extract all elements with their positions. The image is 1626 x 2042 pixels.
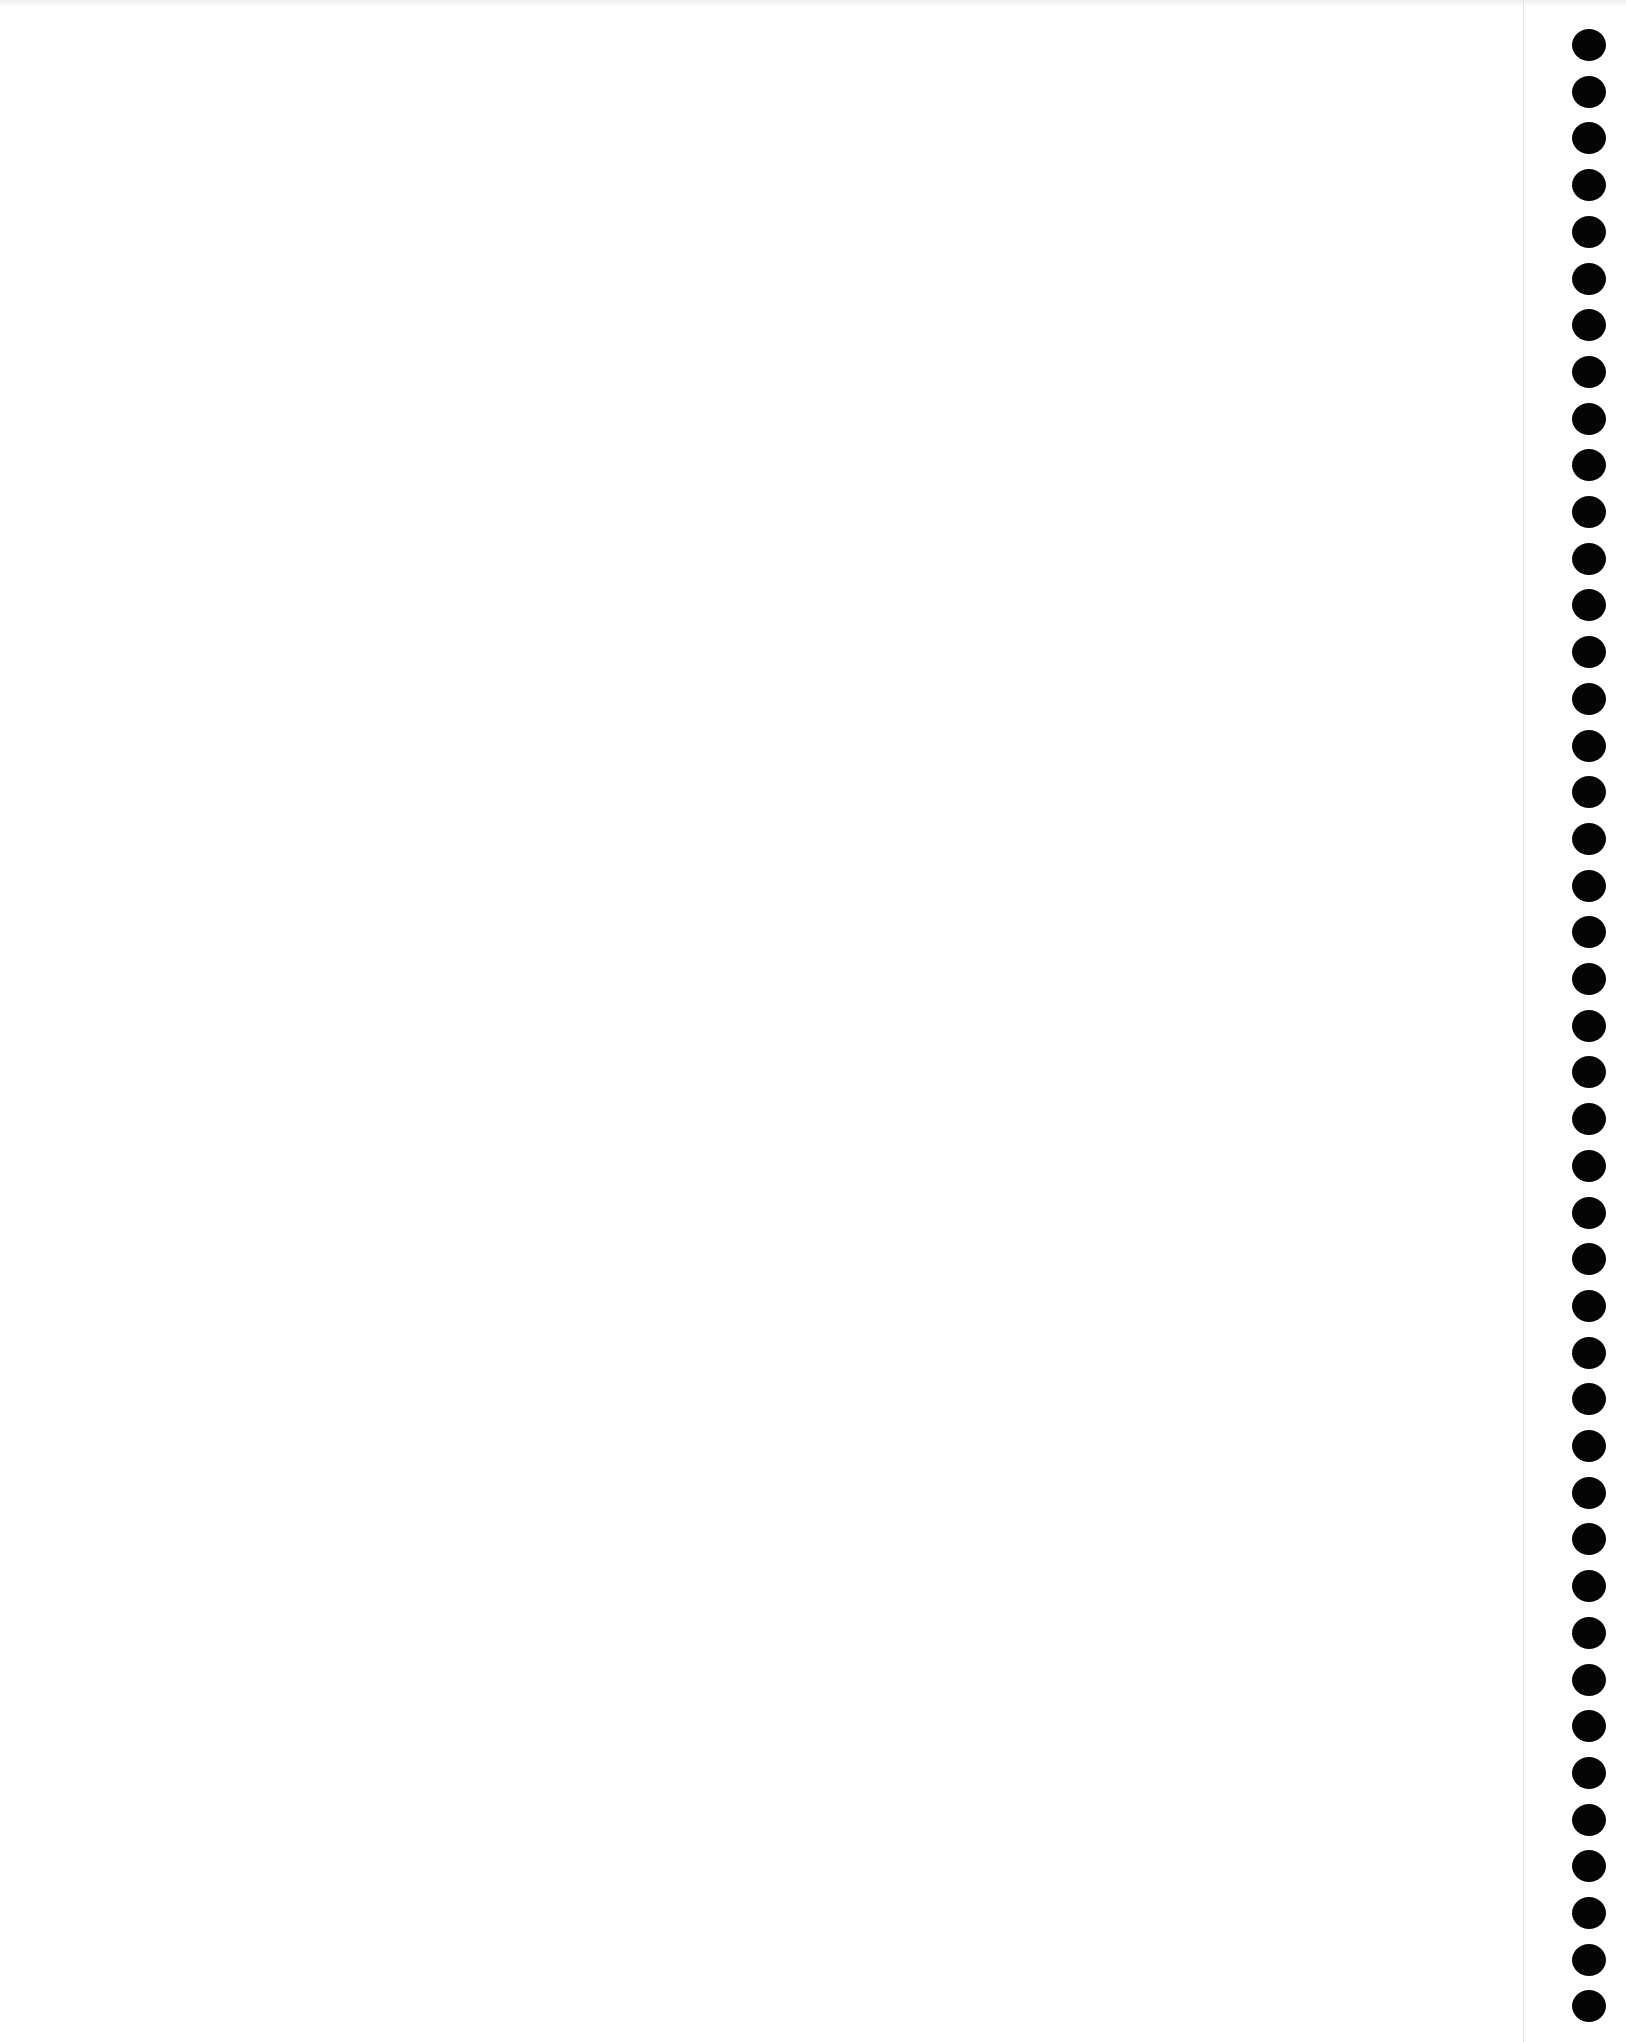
- binding-hole-icon: [1572, 1757, 1606, 1789]
- binding-hole-icon: [1572, 1337, 1606, 1369]
- binding-hole-icon: [1572, 916, 1606, 948]
- binding-hole-icon: [1572, 356, 1606, 388]
- binding-hole-icon: [1572, 1990, 1606, 2022]
- binding-hole-icon: [1572, 1523, 1606, 1555]
- perforation-line: [1523, 0, 1524, 2042]
- binding-hole-icon: [1572, 216, 1606, 248]
- binding-hole-icon: [1572, 496, 1606, 528]
- binding-hole-icon: [1572, 823, 1606, 855]
- binding-hole-icon: [1572, 1383, 1606, 1415]
- binding-hole-icon: [1572, 1850, 1606, 1882]
- binding-hole-icon: [1572, 403, 1606, 435]
- binding-hole-icon: [1572, 1010, 1606, 1042]
- binding-hole-icon: [1572, 1664, 1606, 1696]
- binding-hole-icon: [1572, 122, 1606, 154]
- binding-hole-icon: [1572, 1570, 1606, 1602]
- binding-hole-icon: [1572, 1056, 1606, 1088]
- binding-hole-icon: [1572, 1197, 1606, 1229]
- binding-hole-icon: [1572, 76, 1606, 108]
- spiral-binding-holes: [1572, 0, 1612, 2042]
- binding-hole-icon: [1572, 449, 1606, 481]
- binding-hole-icon: [1572, 29, 1606, 61]
- binding-hole-icon: [1572, 1477, 1606, 1509]
- binding-hole-icon: [1572, 1710, 1606, 1742]
- binding-hole-icon: [1572, 589, 1606, 621]
- binding-hole-icon: [1572, 683, 1606, 715]
- binding-hole-icon: [1572, 1897, 1606, 1929]
- binding-hole-icon: [1572, 1103, 1606, 1135]
- binding-hole-icon: [1572, 1150, 1606, 1182]
- binding-hole-icon: [1572, 169, 1606, 201]
- binding-hole-icon: [1572, 636, 1606, 668]
- scan-edge-shadow: [0, 0, 1626, 6]
- binding-hole-icon: [1572, 1617, 1606, 1649]
- binding-hole-icon: [1572, 1243, 1606, 1275]
- binding-hole-icon: [1572, 1290, 1606, 1322]
- binding-hole-icon: [1572, 1804, 1606, 1836]
- notebook-page: [0, 0, 1626, 2042]
- binding-hole-icon: [1572, 309, 1606, 341]
- binding-hole-icon: [1572, 730, 1606, 762]
- binding-hole-icon: [1572, 543, 1606, 575]
- binding-hole-icon: [1572, 963, 1606, 995]
- binding-hole-icon: [1572, 870, 1606, 902]
- binding-hole-icon: [1572, 1944, 1606, 1976]
- binding-hole-icon: [1572, 776, 1606, 808]
- binding-hole-icon: [1572, 263, 1606, 295]
- binding-hole-icon: [1572, 1430, 1606, 1462]
